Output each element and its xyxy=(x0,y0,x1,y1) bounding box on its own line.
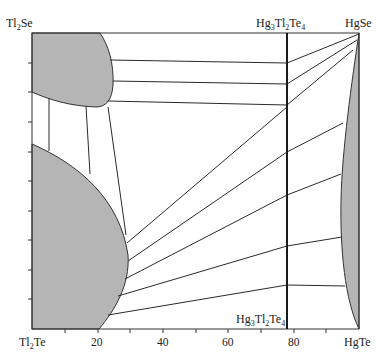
phase-diagram: Tl2Se HgSe Tl2Te HgTe Hg3Tl2Te4 Hg3Tl2Te… xyxy=(0,0,391,362)
tie-line xyxy=(108,101,287,105)
tie-line xyxy=(127,107,287,243)
tie-line xyxy=(110,60,287,63)
x-tick-label: 60 xyxy=(222,336,234,348)
tie-line xyxy=(287,174,341,195)
x-tick-label: 80 xyxy=(288,336,300,348)
compound-label-bottom: Hg3Tl2Te4 xyxy=(236,312,285,328)
corner-label-tl2se: Tl2Se xyxy=(6,16,33,32)
bottom-axis-ticks xyxy=(65,329,326,333)
x-tick-label: 20 xyxy=(91,336,103,348)
x-tick-label: 40 xyxy=(157,336,169,348)
corner-label-hgse: HgSe xyxy=(345,16,372,30)
tie-line xyxy=(287,34,359,63)
corner-label-tl2te: Tl2Te xyxy=(19,335,46,351)
tie-line xyxy=(108,285,287,315)
hgse-hgte-solid-solution-region xyxy=(341,33,359,329)
tie-line xyxy=(113,81,287,84)
tie-line xyxy=(86,106,90,174)
tl2se-solid-solution-region xyxy=(32,33,113,107)
compound-label-top: Hg3Tl2Te4 xyxy=(256,16,305,32)
tl2te-solid-solution-region xyxy=(32,144,128,329)
tie-line xyxy=(128,152,287,261)
left-axis-ticks xyxy=(28,63,32,299)
tie-line xyxy=(118,246,287,296)
corner-label-hgte: HgTe xyxy=(344,335,370,349)
tie-line xyxy=(287,285,345,286)
tie-line xyxy=(287,123,343,152)
tie-line xyxy=(287,40,357,84)
tie-line xyxy=(287,237,342,246)
